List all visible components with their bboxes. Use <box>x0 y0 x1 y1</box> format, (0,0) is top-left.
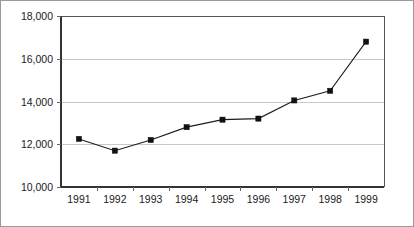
x-tick-label: 1999 <box>354 193 378 205</box>
x-tick-label: 1995 <box>211 193 235 205</box>
y-tick-label: 14,000 <box>21 96 53 108</box>
x-tick-label: 1994 <box>175 193 199 205</box>
data-point <box>256 116 261 121</box>
x-tick-label: 1998 <box>318 193 342 205</box>
data-point <box>76 136 81 141</box>
x-tick-label: 1992 <box>103 193 127 205</box>
plot-background <box>61 16 384 187</box>
y-tick-label: 12,000 <box>21 138 53 150</box>
x-tick-label: 1996 <box>247 193 271 205</box>
data-point <box>363 39 368 44</box>
data-point <box>184 125 189 130</box>
data-point <box>328 88 333 93</box>
x-tick-label: 1991 <box>67 193 91 205</box>
y-axis-tick-labels: 10,00012,00014,00016,00018,000 <box>21 10 53 193</box>
line-chart: 10,00012,00014,00016,00018,000 199119921… <box>1 1 414 227</box>
y-tick-marks <box>57 17 61 188</box>
y-tick-label: 10,000 <box>21 181 53 193</box>
y-tick-label: 18,000 <box>21 10 53 22</box>
data-point <box>292 98 297 103</box>
data-point <box>148 137 153 142</box>
data-point <box>112 148 117 153</box>
x-tick-label: 1993 <box>139 193 163 205</box>
x-tick-label: 1997 <box>283 193 307 205</box>
x-tick-marks <box>98 187 349 191</box>
data-point <box>220 117 225 122</box>
y-tick-label: 16,000 <box>21 53 53 65</box>
x-axis-tick-labels: 199119921993199419951996199719981999 <box>67 193 378 205</box>
chart-figure: 10,00012,00014,00016,00018,000 199119921… <box>0 0 414 227</box>
